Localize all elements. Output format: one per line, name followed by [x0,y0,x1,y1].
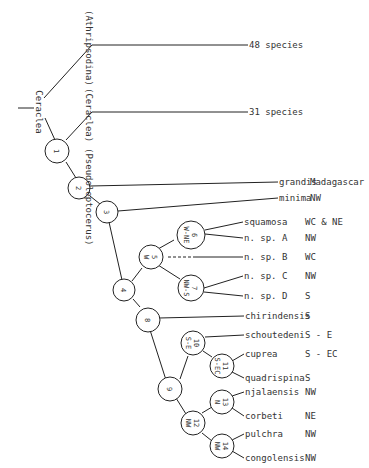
taxon-name: congolensis [245,453,305,463]
svg-text:14: 14 [221,442,229,450]
branch-node3-node4 [109,222,122,280]
node-7: 7 NW-S [178,275,204,301]
node-13: 13 N [210,390,234,414]
taxon-name: n. sp. A [244,233,288,243]
svg-text:6: 6 [190,233,198,237]
branch-quadrispina [232,372,244,378]
branch-node5-node6 [158,240,174,249]
subgenus-ceraclea-label: (Ceraclea) [84,88,94,142]
node-1: 1 [45,139,69,163]
taxon-name: quadrispina [245,373,305,383]
branch-nspc [204,276,243,288]
branch-node8-node9 [150,330,166,380]
svg-text:NW: NW [213,442,221,451]
taxon-distribution: NW [305,233,316,243]
branch-node4-node5 [132,268,142,281]
taxon-name: n. sp. D [244,291,287,301]
branch-node9-node10 [180,356,188,379]
svg-text:9: 9 [165,387,173,391]
subgenus-athripsodina-label: (Athripsodina) [84,10,94,86]
taxon-distribution: S - EC [305,349,338,359]
svg-text:3: 3 [102,210,110,214]
taxon-name: chirindensis [245,311,310,321]
branch-corbeti [232,408,244,416]
taxon-name: schoutedeni [245,330,305,340]
svg-text:10: 10 [192,339,200,347]
branch-minima [118,198,278,211]
svg-text:W-NE: W-NE [182,227,190,244]
subgenus-pseudoleptocerus-label: (Pseudoleptocerus) [84,148,94,246]
taxon-distribution: S [305,311,310,321]
branch-node12-node13 [202,407,212,413]
branch-node12-node14 [202,433,212,441]
branch-root-node1 [45,118,55,140]
branch-squamosa [205,222,243,230]
svg-text:4: 4 [119,288,127,292]
branch-node9-node12 [176,398,186,414]
svg-text:5: 5 [150,255,158,259]
node-10: 10 S-E [181,331,205,355]
branch-congolensis [232,451,244,458]
taxon-name: cuprea [245,349,278,359]
taxon-distribution: S [305,291,310,301]
branch-cuprea [232,354,244,361]
branch-node1-node2 [66,162,76,178]
taxon-name: minima [279,193,312,203]
svg-text:1: 1 [52,149,60,153]
taxon-distribution: NW [310,193,321,203]
taxon-name: pulchra [245,429,283,439]
taxon-distribution: NW [305,387,316,397]
taxon-name: njalaensis [245,387,299,397]
taxon-distribution: WC & NE [305,217,343,227]
taxon-distribution: S [305,373,310,383]
taxon-name: n. sp. B [244,252,287,262]
node-12: 12 NW [181,411,205,435]
branch-pulchra [232,434,244,440]
tree-svg: 1 2 3 4 5 W 6 W-NE 7 NW-S 8 9 10 S-E [0,0,369,468]
node-6: 6 W-NE [177,221,205,249]
branch-nspa [205,234,243,238]
svg-text:12: 12 [192,419,200,427]
branch-njalaensis [232,392,244,396]
terminal-athripsodina: 48 species [249,40,303,50]
taxon-distribution: NW [305,453,316,463]
branch-nspd [204,292,243,296]
svg-text:N: N [213,400,221,404]
svg-text:S-E: S-E [184,337,192,350]
node-3: 3 [96,201,118,223]
branch-node4-node8 [133,299,140,307]
svg-text:13: 13 [221,398,229,406]
node-9: 9 [158,377,182,401]
taxon-name: corbeti [245,411,283,421]
taxon-distribution: S - E [305,330,332,340]
svg-text:NW-S: NW-S [182,280,190,297]
svg-text:2: 2 [74,186,82,190]
svg-text:8: 8 [143,318,151,322]
branch-schoutedeni [205,335,244,337]
taxon-name: squamosa [244,217,287,227]
taxon-distribution: Madagascar [310,177,365,187]
terminal-ceraclea: 31 species [249,107,303,117]
branch-chirindensis [159,316,244,318]
root-label: Ceraclea [34,90,44,133]
taxon-name: n. sp. C [244,271,287,281]
svg-text:7: 7 [190,286,198,290]
node-14: 14 NW [210,434,234,458]
branch-node5-node7 [158,265,180,279]
taxon-distribution: WC [305,252,316,262]
node-11: 11 S-EC [210,354,234,378]
node-5: 5 W [139,245,163,269]
svg-text:S-EC: S-EC [213,358,221,375]
taxon-distribution: NE [305,411,316,421]
phylogenetic-tree-diagram: 1 2 3 4 5 W 6 W-NE 7 NW-S 8 9 10 S-E [0,0,369,468]
taxon-distribution: NW [305,429,316,439]
node-8: 8 [136,308,160,332]
node-4: 4 [113,279,135,301]
branch-node10-node11 [203,351,212,357]
svg-text:11: 11 [221,362,229,370]
svg-text:NW: NW [184,419,192,428]
branch-grandis [90,182,278,186]
taxon-distribution: NW [305,271,316,281]
